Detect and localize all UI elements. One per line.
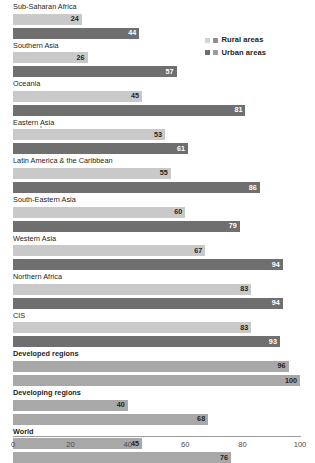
bar-rural: 96 (13, 361, 289, 372)
bar-rural: 83 (13, 322, 251, 333)
x-axis-line (13, 436, 301, 437)
bar-rural: 40 (13, 400, 128, 411)
x-axis-tick: 40 (124, 440, 132, 449)
bar-group: Developing regions4068 (0, 388, 315, 425)
bar-rural: 45 (13, 91, 142, 102)
bar-value-label: 67 (194, 247, 202, 254)
bar-urban: 44 (13, 28, 139, 39)
bar-rural: 67 (13, 245, 205, 256)
category-label: Latin America & the Caribbean (13, 156, 113, 165)
category-label: World (13, 427, 34, 436)
bar-value-label: 94 (272, 300, 280, 307)
category-label: Developed regions (13, 349, 78, 358)
bar-rural: 24 (13, 14, 82, 25)
x-axis-tick-labels: 020406080100 (0, 440, 315, 454)
category-label: Oceania (13, 79, 40, 88)
bar-group: Eastern Asia5361 (0, 118, 315, 155)
bar-value-label: 83 (240, 286, 248, 293)
bar-group: Southern Asia2657 (0, 41, 315, 78)
bar-value-label: 96 (277, 363, 285, 370)
bar-group: CIS8393 (0, 311, 315, 348)
bar-urban: 94 (13, 259, 283, 270)
bar-group: Developed regions96100 (0, 349, 315, 386)
category-label: South-Eastern Asia (13, 195, 76, 204)
scan-artifact (40, 126, 42, 128)
bar-group: Northern Africa8394 (0, 272, 315, 309)
bar-group: South-Eastern Asia6079 (0, 195, 315, 232)
bar-value-label: 55 (160, 170, 168, 177)
bar-group: Latin America & the Caribbean5586 (0, 156, 315, 193)
bar-value-label: 61 (177, 145, 185, 152)
bar-value-label: 26 (77, 54, 85, 61)
bar-rural: 26 (13, 52, 88, 63)
category-label: Developing regions (13, 388, 81, 397)
x-axis-tick: 100 (294, 440, 307, 449)
bar-urban: 57 (13, 66, 177, 77)
bar-value-label: 93 (269, 338, 277, 345)
bar-value-label: 100 (285, 377, 297, 384)
bar-value-label: 94 (272, 261, 280, 268)
bar-rural: 55 (13, 168, 171, 179)
bar-urban: 68 (13, 414, 208, 425)
x-axis-tick: 20 (66, 440, 74, 449)
bar-value-label: 24 (71, 15, 79, 22)
bar-value-label: 44 (128, 30, 136, 37)
category-label: Eastern Asia (13, 118, 54, 127)
category-label: Western Asia (13, 234, 56, 243)
bar-urban: 79 (13, 221, 240, 232)
bar-value-label: 83 (240, 324, 248, 331)
bar-rural: 60 (13, 207, 185, 218)
bar-value-label: 81 (234, 107, 242, 114)
bar-value-label: 45 (131, 93, 139, 100)
x-axis-tick: 80 (238, 440, 246, 449)
bar-value-label: 53 (154, 131, 162, 138)
bar-group: Western Asia6794 (0, 234, 315, 271)
bar-value-label: 68 (197, 416, 205, 423)
bar-rural: 83 (13, 284, 251, 295)
category-label: Sub-Saharan Africa (13, 2, 77, 11)
category-label: Northern Africa (13, 272, 62, 281)
category-label: CIS (13, 311, 25, 320)
x-axis-tick: 0 (11, 440, 15, 449)
bar-group: Sub-Saharan Africa2444 (0, 2, 315, 39)
bar-value-label: 60 (174, 208, 182, 215)
x-axis-tick: 60 (181, 440, 189, 449)
bar-urban: 86 (13, 182, 260, 193)
bar-value-label: 79 (229, 223, 237, 230)
bar-value-label: 86 (249, 184, 257, 191)
bar-group: Oceania4581 (0, 79, 315, 116)
bar-urban: 100 (13, 375, 300, 386)
bar-value-label: 76 (220, 454, 228, 461)
bar-rural: 53 (13, 129, 165, 140)
bar-value-label: 57 (166, 68, 174, 75)
bar-urban: 81 (13, 105, 245, 116)
bar-urban: 94 (13, 298, 283, 309)
bar-urban: 93 (13, 336, 280, 347)
bar-value-label: 40 (117, 401, 125, 408)
bar-urban: 61 (13, 143, 188, 154)
category-label: Southern Asia (13, 41, 59, 50)
